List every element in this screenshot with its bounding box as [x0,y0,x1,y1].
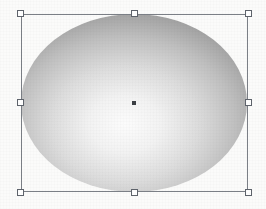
resize-handle-bottom-center[interactable] [131,189,138,196]
resize-handle-bottom-right[interactable] [245,189,252,196]
resize-handle-top-left[interactable] [17,10,24,17]
resize-handle-top-right[interactable] [245,10,252,17]
resize-handle-bottom-left[interactable] [17,189,24,196]
resize-handle-middle-right[interactable] [245,99,252,106]
resize-handle-top-center[interactable] [131,10,138,17]
drawing-canvas[interactable] [0,0,266,209]
resize-handle-middle-left[interactable] [17,99,24,106]
shape-center-marker[interactable] [132,101,136,105]
